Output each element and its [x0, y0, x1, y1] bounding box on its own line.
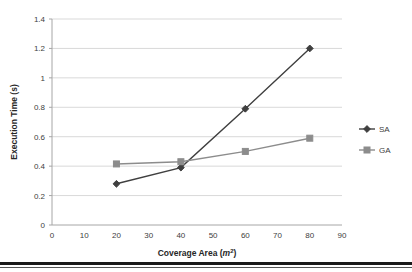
y-tick-label: 0.4	[34, 162, 46, 171]
x-tick-label: 90	[338, 231, 347, 240]
x-tick-label: 50	[209, 231, 218, 240]
footer-rule-thin	[0, 267, 412, 268]
x-tick-label: 70	[273, 231, 282, 240]
data-point-marker-ga	[242, 148, 248, 154]
x-axis-title-main: Coverage Area (	[158, 248, 223, 258]
y-tick-label: 0	[41, 221, 46, 230]
x-tick-label: 20	[112, 231, 121, 240]
x-tick-label: 80	[305, 231, 314, 240]
y-tick-label: 1	[41, 74, 46, 83]
gridlines	[52, 19, 342, 196]
y-tick-label: 0.8	[34, 103, 46, 112]
y-tick-label: 1.4	[34, 15, 46, 24]
data-point-marker-ga	[307, 135, 313, 141]
x-tick-label: 10	[80, 231, 89, 240]
legend: SAGA	[359, 125, 391, 155]
y-tick-label: 0.6	[34, 133, 46, 142]
x-tick-label: 40	[176, 231, 185, 240]
y-tick-label: 0.2	[34, 192, 46, 201]
data-point-marker-sa	[113, 180, 120, 187]
series-line-ga	[116, 138, 309, 164]
x-tick-labels: 0102030405060708090	[50, 231, 347, 240]
y-tick-labels: 00.20.40.60.811.21.4	[34, 15, 52, 230]
y-tick-label: 1.2	[34, 44, 46, 53]
x-axis-title: Coverage Area (m2)	[158, 248, 237, 258]
footer-rule-thick	[0, 262, 412, 265]
legend-label-sa[interactable]: SA	[379, 125, 390, 134]
chart-container: 00.20.40.60.811.21.4 0102030405060708090…	[0, 0, 412, 272]
legend-marker-sa	[364, 126, 371, 133]
y-axis-title: Execution Time (s)	[9, 84, 19, 160]
data-point-marker-ga	[113, 161, 119, 167]
x-tick-label: 0	[50, 231, 55, 240]
x-axis-title-close: )	[233, 248, 236, 258]
x-tick-label: 60	[241, 231, 250, 240]
legend-marker-ga	[364, 147, 370, 153]
x-tick-label: 30	[144, 231, 153, 240]
legend-label-ga[interactable]: GA	[379, 146, 391, 155]
line-chart: 00.20.40.60.811.21.4 0102030405060708090…	[0, 0, 412, 272]
data-point-marker-ga	[178, 159, 184, 165]
